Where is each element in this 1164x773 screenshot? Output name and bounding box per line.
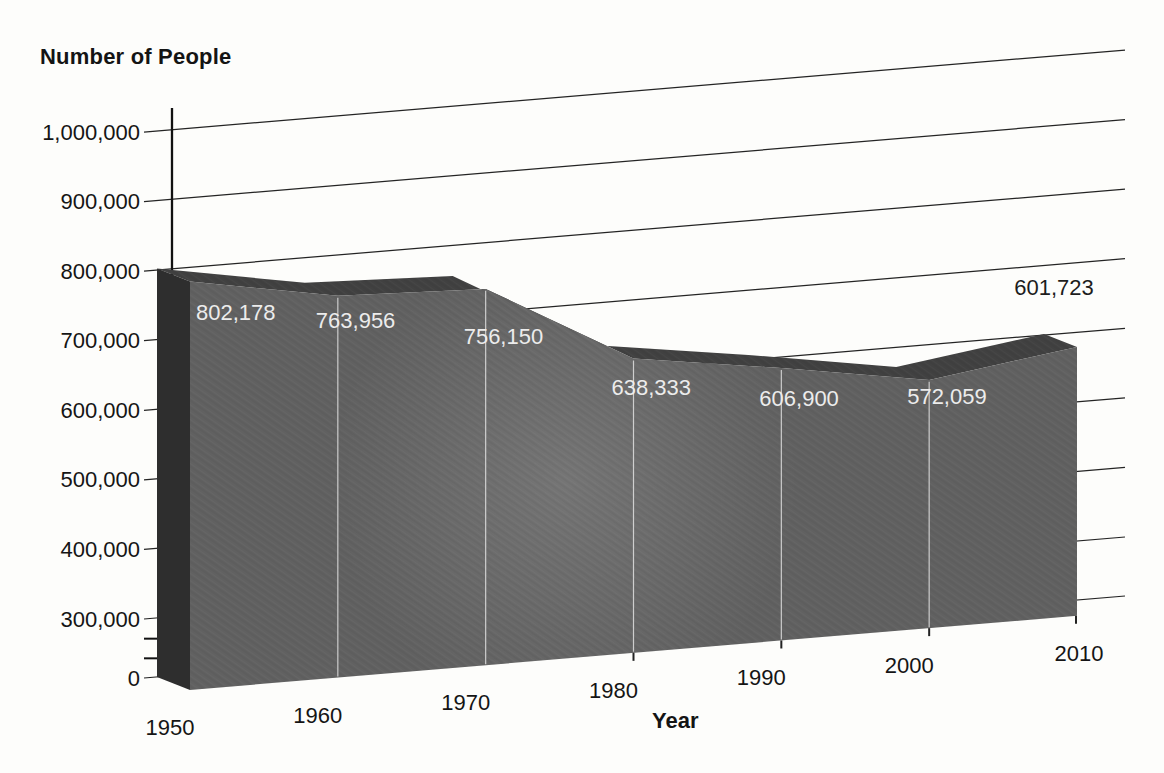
value-label-1990: 606,900 xyxy=(759,386,839,411)
chart-figure: 1,000,000900,000800,000700,000600,000500… xyxy=(0,0,1164,773)
y-tick-label-700000: 700,000 xyxy=(60,328,140,353)
x-tick-label-2000: 2000 xyxy=(885,653,934,678)
x-tick-label-1960: 1960 xyxy=(293,703,342,728)
x-tick-label-1990: 1990 xyxy=(737,665,786,690)
value-label-1980: 638,333 xyxy=(611,375,691,400)
y-tick-label-0: 0 xyxy=(128,666,140,691)
x-axis-title: Year xyxy=(652,708,699,734)
value-label-1960: 763,956 xyxy=(316,308,396,333)
y-tick-label-1000000: 1,000,000 xyxy=(42,120,140,145)
chart-title: Number of People xyxy=(40,44,231,70)
gridline-800000 xyxy=(144,189,1125,271)
value-label-1970: 756,150 xyxy=(464,324,544,349)
y-tick-label-400000: 400,000 xyxy=(60,537,140,562)
area-side-facet xyxy=(157,269,190,690)
value-label-2010: 601,723 xyxy=(1014,275,1094,300)
x-tick-label-1950: 1950 xyxy=(146,715,195,740)
y-tick-label-900000: 900,000 xyxy=(60,189,140,214)
gridline-1000000 xyxy=(144,50,1125,132)
x-tick-label-1970: 1970 xyxy=(441,690,490,715)
y-tick-label-600000: 600,000 xyxy=(60,398,140,423)
y-tick-label-300000: 300,000 xyxy=(60,607,140,632)
value-label-2000: 572,059 xyxy=(907,384,987,409)
x-tick-label-2010: 2010 xyxy=(1055,641,1104,666)
area-chart-canvas: 1,000,000900,000800,000700,000600,000500… xyxy=(0,0,1164,773)
x-tick-label-1980: 1980 xyxy=(589,678,638,703)
y-tick-label-800000: 800,000 xyxy=(60,259,140,284)
gridline-900000 xyxy=(144,120,1125,202)
y-tick-label-500000: 500,000 xyxy=(60,467,140,492)
value-label-1950: 802,178 xyxy=(196,300,276,325)
